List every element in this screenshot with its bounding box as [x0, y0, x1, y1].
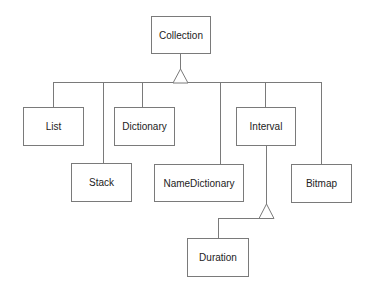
- class-label-duration: Duration: [199, 252, 237, 263]
- class-box-namedictionary: NameDictionary: [154, 164, 244, 202]
- class-box-dictionary: Dictionary: [114, 107, 175, 146]
- class-label-dictionary: Dictionary: [122, 121, 166, 132]
- class-label-namedictionary: NameDictionary: [163, 178, 234, 189]
- class-label-list: List: [46, 121, 62, 132]
- class-label-bitmap: Bitmap: [306, 178, 337, 189]
- class-box-stack: Stack: [71, 163, 132, 202]
- class-box-duration: Duration: [187, 238, 249, 277]
- class-box-interval: Interval: [236, 107, 296, 146]
- class-label-interval: Interval: [250, 121, 283, 132]
- class-box-bitmap: Bitmap: [291, 164, 352, 203]
- generalization-triangle-icon: [259, 204, 274, 219]
- generalization-triangle-icon: [173, 69, 188, 83]
- class-hierarchy-diagram: Collection List Stack Dictionary NameDic…: [0, 0, 368, 294]
- class-label-stack: Stack: [89, 177, 114, 188]
- class-box-collection: Collection: [151, 16, 211, 54]
- class-label-collection: Collection: [159, 30, 203, 41]
- class-box-list: List: [23, 107, 84, 146]
